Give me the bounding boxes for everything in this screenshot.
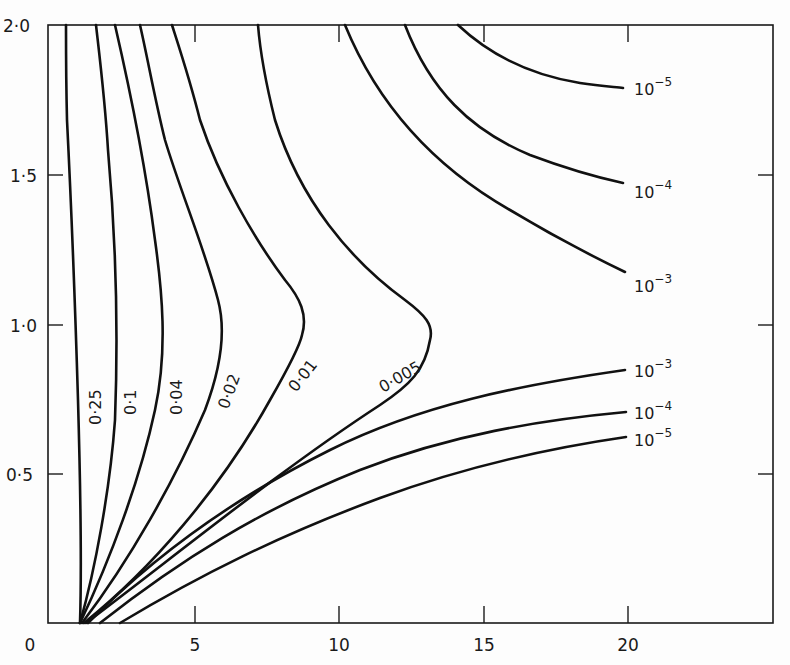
label-0-25: 0·25 xyxy=(86,389,105,425)
contour-0-005 xyxy=(86,25,431,623)
contour-upper-1e-3 xyxy=(345,25,625,272)
plot-frame xyxy=(48,25,773,623)
y-tick-label: 1·5 xyxy=(10,166,37,186)
label-upper-1e-5: 10−5 xyxy=(634,75,672,99)
contour-chart: 2·0 1·5 1·0 0·5 0 5 10 15 20 xyxy=(0,0,790,665)
exponent-labels: 10−5 10−4 10−3 10−3 10−4 10−5 xyxy=(634,75,672,450)
x-tick-label: 0 xyxy=(25,635,36,655)
x-axis: 0 5 10 15 20 xyxy=(25,606,639,655)
y-tick-label: 2·0 xyxy=(3,16,30,36)
y-tick-label: 1·0 xyxy=(10,316,37,336)
contour-0-04 xyxy=(80,25,163,623)
contour-upper-1e-5 xyxy=(458,25,623,88)
contour-lower-1e-4 xyxy=(100,412,626,623)
label-lower-1e-3: 10−3 xyxy=(634,357,672,381)
label-0-02: 0·02 xyxy=(214,371,244,411)
label-0-04: 0·04 xyxy=(167,379,186,415)
label-upper-1e-4: 10−4 xyxy=(634,178,672,202)
x-tick-label: 20 xyxy=(617,635,639,655)
x-tick-label: 5 xyxy=(190,635,201,655)
label-lower-1e-4: 10−4 xyxy=(634,399,672,423)
contour-curves xyxy=(66,25,626,623)
label-0-1: 0·1 xyxy=(121,390,140,415)
x-tick-label: 10 xyxy=(328,635,350,655)
contour-0-25 xyxy=(66,25,81,623)
y-axis: 2·0 1·5 1·0 0·5 xyxy=(3,16,63,485)
right-axis xyxy=(758,175,773,474)
contour-0-1 xyxy=(80,25,116,623)
x-tick-label: 15 xyxy=(473,635,495,655)
y-tick-label: 0·5 xyxy=(6,465,33,485)
label-lower-1e-5: 10−5 xyxy=(634,426,672,450)
contour-labels: 0·25 0·1 0·04 0·02 0·01 0·005 xyxy=(86,356,425,427)
label-upper-1e-3: 10−3 xyxy=(634,272,672,296)
